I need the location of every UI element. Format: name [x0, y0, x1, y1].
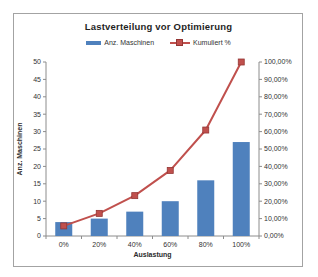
left-axis-tick-label: 25	[33, 145, 41, 152]
right-axis-tick-label: 70,00%	[264, 111, 288, 118]
left-axis-title: Anz. Maschinen	[16, 62, 28, 236]
right-axis-tick-label: 30,00%	[264, 180, 288, 187]
right-axis-tick-label: 100,00%	[264, 58, 292, 65]
right-axis-tick-label: 60,00%	[264, 128, 288, 135]
left-axis-tick-label: 15	[33, 180, 41, 187]
left-axis-tick-label: 35	[33, 111, 41, 118]
x-axis-title: Auslastung	[46, 251, 259, 258]
line-marker-100%	[238, 59, 244, 65]
right-axis-tick-label: 80,00%	[264, 93, 288, 100]
x-axis-category-label: 60%	[163, 241, 177, 248]
x-axis-category-label: 100%	[232, 241, 250, 248]
right-axis-tick-label: 0,00%	[264, 232, 284, 239]
left-axis-tick-label: 30	[33, 128, 41, 135]
line-marker-80%	[203, 127, 209, 133]
x-axis-category-label: 20%	[92, 241, 106, 248]
plot-area: 051015202530354045500,00%10,00%20,00%30,…	[33, 58, 291, 248]
right-axis-tick-label: 90,00%	[264, 76, 288, 83]
bar-80%	[197, 180, 214, 236]
left-axis-tick-label: 10	[33, 198, 41, 205]
line-marker-0%	[61, 223, 67, 229]
right-axis-tick-label: 50,00%	[264, 145, 288, 152]
left-axis-tick-label: 45	[33, 76, 41, 83]
right-axis-tick-label: 10,00%	[264, 215, 288, 222]
cumulative-line	[64, 62, 242, 226]
plot-svg: 051015202530354045500,00%10,00%20,00%30,…	[0, 0, 318, 277]
left-axis-tick-label: 20	[33, 163, 41, 170]
right-axis-tick-label: 40,00%	[264, 163, 288, 170]
x-axis-category-label: 40%	[128, 241, 142, 248]
right-axis-tick-label: 20,00%	[264, 198, 288, 205]
chart-screenshot: Lastverteilung vor Optimierung Anz. Masc…	[0, 0, 318, 277]
bar-60%	[162, 201, 179, 236]
bar-40%	[126, 212, 143, 236]
left-axis-tick-label: 5	[37, 215, 41, 222]
line-marker-60%	[167, 167, 173, 173]
left-axis-tick-label: 0	[37, 232, 41, 239]
bar-20%	[91, 219, 108, 236]
line-marker-40%	[132, 193, 138, 199]
left-axis-tick-label: 40	[33, 93, 41, 100]
line-marker-20%	[96, 210, 102, 216]
bar-100%	[233, 142, 250, 236]
x-axis-category-label: 80%	[199, 241, 213, 248]
left-axis-tick-label: 50	[33, 58, 41, 65]
x-axis-category-label: 0%	[59, 241, 69, 248]
